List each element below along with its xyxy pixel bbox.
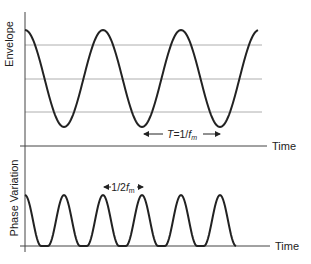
envelope-x-label: Time [272,140,296,152]
phase-y-label: Phase Variation [8,160,20,237]
phase-x-label: Time [275,240,299,252]
phase-variation-curve [25,195,236,246]
envelope-y-label: Envelope [3,21,15,67]
diagram-canvas: Envelope Time T=1/fm Phase Variation Tim… [0,0,311,264]
phase-panel: Phase Variation Time 1/2fm [8,160,299,252]
envelope-curve [25,30,258,127]
